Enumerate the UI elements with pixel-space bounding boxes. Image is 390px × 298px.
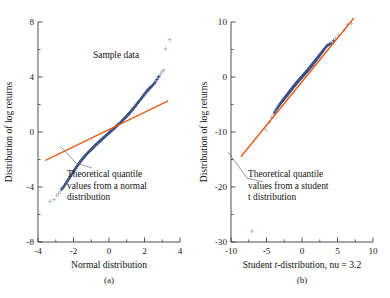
qq-plot-figure: -8-4048-4-2024Distribution of log return… bbox=[0, 0, 390, 298]
x-tick-label: -2 bbox=[70, 246, 78, 256]
y-tick-label: 0 bbox=[222, 72, 227, 82]
annotation-leader bbox=[60, 146, 92, 168]
panel-b: -30-20-10010-10-50510Distribution of log… bbox=[195, 0, 390, 298]
theoretical-quantile-label: t distribution bbox=[248, 192, 296, 202]
theoretical-quantile-label: Theoretical quantile bbox=[67, 169, 142, 179]
x-tick-label: 4 bbox=[178, 246, 183, 256]
theoretical-quantile-line bbox=[241, 18, 353, 156]
panel-a-annotations: Sample dataTheoretical quantilevalues fr… bbox=[60, 50, 147, 202]
theoretical-quantile-line bbox=[46, 101, 168, 160]
y-tick-label: -4 bbox=[26, 182, 34, 192]
panel-b-reference-line bbox=[241, 18, 353, 156]
panel-b-canvas: -30-20-10010-10-50510Distribution of log… bbox=[195, 0, 390, 298]
panel-a: -8-4048-4-2024Distribution of log return… bbox=[0, 0, 195, 298]
x-tick-label: 0 bbox=[300, 246, 305, 256]
panel-b-annotations: Theoretical quantilevalues from a studen… bbox=[228, 152, 329, 202]
x-axis-title: Normal distribution bbox=[71, 259, 147, 270]
y-tick-label: 4 bbox=[29, 72, 34, 82]
y-axis-title: Distribution of log returns bbox=[3, 82, 14, 183]
theoretical-quantile-label: values from a normal bbox=[67, 181, 147, 191]
x-tick-label: -4 bbox=[34, 246, 42, 256]
x-tick-label: -5 bbox=[263, 246, 271, 256]
y-tick-label: 0 bbox=[29, 127, 34, 137]
x-axis-title: Student t-distribution, nu = 3.2 bbox=[243, 259, 362, 270]
y-tick-label: 8 bbox=[29, 17, 34, 27]
x-tick-label: -10 bbox=[225, 246, 238, 256]
y-tick-label: -10 bbox=[215, 127, 228, 137]
y-axis-title: Distribution of log returns bbox=[198, 82, 209, 183]
x-tick-label: 5 bbox=[335, 246, 340, 256]
x-tick-label: 0 bbox=[107, 246, 112, 256]
theoretical-quantile-label: values from a student bbox=[248, 181, 329, 191]
panel-a-reference-line bbox=[46, 101, 168, 160]
theoretical-quantile-label: Theoretical quantile bbox=[248, 169, 323, 179]
x-tick-label: 10 bbox=[368, 246, 378, 256]
panel-a-canvas: -8-4048-4-2024Distribution of log return… bbox=[0, 0, 195, 298]
y-tick-label: 10 bbox=[218, 17, 228, 27]
sample-data-label: Sample data bbox=[93, 50, 140, 60]
panel-b-axes: -30-20-10010-10-50510Distribution of log… bbox=[198, 17, 378, 285]
panel-tag: (a) bbox=[104, 275, 114, 285]
y-tick-label: -20 bbox=[215, 182, 228, 192]
theoretical-quantile-label: distribution bbox=[67, 192, 111, 202]
panel-tag: (b) bbox=[297, 275, 308, 285]
x-tick-label: 2 bbox=[142, 246, 147, 256]
